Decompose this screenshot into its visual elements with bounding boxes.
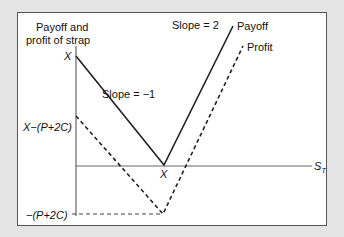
strike-label: X [160, 168, 167, 180]
y-axis-label-line2: profit of strap [26, 34, 90, 46]
payoff-label: Payoff [237, 20, 268, 32]
neg-p2c-label: −(P+2C) [26, 209, 68, 221]
profit-line [76, 46, 243, 214]
x-minus-p2c-label: X−(P+2C) [23, 121, 72, 133]
x-top-label: X [64, 50, 71, 62]
slope-left-label: Slope = −1 [102, 88, 155, 100]
x-axis-label: ST [314, 160, 326, 177]
y-axis-label-line1: Payoff and [36, 21, 88, 33]
profit-label: Profit [247, 41, 273, 53]
slope-right-label: Slope = 2 [172, 19, 219, 31]
